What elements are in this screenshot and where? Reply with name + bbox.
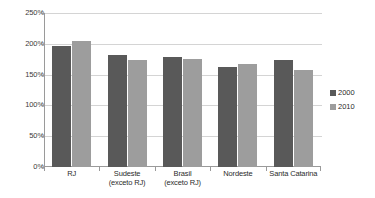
legend-label-2000: 2000 — [338, 89, 355, 97]
bar-2000-rj[interactable] — [52, 46, 71, 167]
legend-label-2010: 2010 — [338, 103, 355, 111]
bar-group-brasil — [155, 13, 210, 167]
bar-group-sudeste — [99, 13, 154, 167]
bar-chart: 250% 200% 150% 100% 50% 0% — [0, 0, 375, 198]
x-label-brasil-line2: (exceto RJ) — [155, 179, 210, 188]
y-axis-label-250: 250% — [4, 9, 44, 17]
bar-2010-brasil[interactable] — [183, 59, 202, 167]
bar-groups — [44, 13, 321, 167]
legend-swatch-icon-2000 — [330, 90, 336, 96]
x-axis-labels: RJ Sudeste (exceto RJ) Brasil (exceto RJ… — [44, 170, 321, 187]
y-axis-label-0: 0% — [4, 163, 44, 171]
bar-group-nordeste — [210, 13, 265, 167]
bar-group-santa-catarina — [266, 13, 321, 167]
bar-group-rj — [44, 13, 99, 167]
y-axis-label-50: 50% — [4, 132, 44, 140]
bar-2010-sudeste[interactable] — [128, 60, 147, 167]
x-label-rj: RJ — [44, 170, 99, 187]
y-axis-label-200: 200% — [4, 40, 44, 48]
x-label-nordeste: Nordeste — [210, 170, 265, 187]
bar-2010-santa-catarina[interactable] — [294, 70, 313, 167]
x-label-rj-line1: RJ — [44, 170, 99, 179]
x-label-santa-catarina: Santa Catarina — [266, 170, 321, 187]
x-label-nordeste-line1: Nordeste — [210, 170, 265, 179]
x-label-santa-catarina-line1: Santa Catarina — [266, 170, 321, 179]
y-axis-label-150: 150% — [4, 71, 44, 79]
legend-swatch-icon-2010 — [330, 104, 336, 110]
bar-2000-santa-catarina[interactable] — [274, 60, 293, 167]
bar-2010-nordeste[interactable] — [238, 64, 257, 167]
legend-item-2010[interactable]: 2010 — [330, 100, 355, 114]
chart-legend: 2000 2010 — [330, 86, 355, 114]
bar-2000-sudeste[interactable] — [108, 55, 127, 167]
bar-2000-brasil[interactable] — [163, 57, 182, 167]
x-label-sudeste: Sudeste (exceto RJ) — [99, 170, 154, 187]
x-label-brasil: Brasil (exceto RJ) — [155, 170, 210, 187]
legend-item-2000[interactable]: 2000 — [330, 86, 355, 100]
x-label-sudeste-line2: (exceto RJ) — [99, 179, 154, 188]
y-axis-label-100: 100% — [4, 101, 44, 109]
bar-2010-rj[interactable] — [72, 41, 91, 167]
bar-2000-nordeste[interactable] — [218, 67, 237, 167]
